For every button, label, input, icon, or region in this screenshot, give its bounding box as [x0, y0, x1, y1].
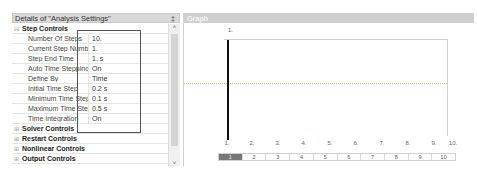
property-value[interactable]: On [88, 114, 101, 123]
time-reference-line [184, 83, 447, 84]
property-value[interactable]: On [88, 64, 101, 73]
section-nonlinear-controls[interactable]: ⊞ Nonlinear Controls [12, 144, 168, 154]
expand-icon[interactable]: ⊞ [12, 135, 20, 142]
x-tick: 7. [379, 140, 384, 146]
section-step-controls[interactable]: ⊟ Step Controls [12, 24, 168, 34]
step-button-10[interactable]: 10 [432, 154, 455, 160]
property-name: Number Of Steps [20, 35, 88, 42]
x-tick: 4. [301, 140, 306, 146]
property-row-initial-time-step[interactable]: Initial Time Step 0.2 s [12, 84, 168, 94]
property-value[interactable]: 0.2 s [88, 84, 107, 93]
current-step-marker[interactable] [227, 40, 229, 140]
property-row-number-of-steps[interactable]: Number Of Steps 10. [12, 34, 168, 44]
x-tick: 2. [249, 140, 254, 146]
details-scrollbar[interactable]: ˄ ˅ [168, 24, 180, 166]
properties-tree: ⊟ Step Controls Number Of Steps 10. Curr… [12, 24, 168, 164]
step-button-5[interactable]: 5 [314, 154, 338, 160]
property-row-maximum-time-step[interactable]: Maximum Time Step 0.5 s [12, 104, 168, 114]
property-value[interactable]: 0.1 s [88, 94, 107, 103]
property-name: Time Integration [20, 115, 88, 122]
property-value[interactable]: 1. s [88, 54, 103, 63]
expand-icon[interactable]: ⊞ [12, 145, 20, 152]
graph-title: Graph [187, 14, 208, 23]
section-label: Solver Controls [20, 125, 162, 132]
graph-plot-area[interactable] [224, 39, 448, 136]
property-name: Define By [20, 75, 88, 82]
property-name: Step End Time [20, 55, 88, 62]
step-button-6[interactable]: 6 [338, 154, 362, 160]
pin-icon[interactable]: ‡ [171, 15, 175, 22]
section-label: Nonlinear Controls [20, 145, 162, 152]
step-marker-label: 1. [228, 27, 233, 33]
section-output-controls[interactable]: ⊞ Output Controls [12, 154, 168, 164]
section-label: Restart Controls [20, 135, 162, 142]
property-name: Initial Time Step [20, 85, 88, 92]
scroll-up-icon[interactable]: ˄ [169, 24, 180, 30]
graph-panel: Graph 1. 1. 2. 3. 4. 5. 6. 7. 8. 9. 10. … [183, 13, 474, 166]
section-label: Output Controls [20, 155, 162, 162]
x-tick: 9. [431, 140, 436, 146]
expand-icon[interactable]: ⊞ [12, 155, 20, 162]
section-label: Step Controls [20, 25, 162, 32]
property-row-define-by[interactable]: Define By Time [12, 74, 168, 84]
collapse-icon[interactable]: ⊟ [12, 25, 20, 32]
property-name: Auto Time Stepping [20, 65, 88, 72]
graph-header: Graph [184, 13, 474, 23]
scroll-down-icon[interactable]: ˅ [169, 160, 180, 166]
property-row-auto-time-stepping[interactable]: Auto Time Stepping On [12, 64, 168, 74]
x-axis-ticks: 1. 2. 3. 4. 5. 6. 7. 8. 9. 10. [224, 140, 454, 148]
x-tick: 6. [353, 140, 358, 146]
property-name: Current Step Number [20, 45, 88, 52]
property-row-time-integration[interactable]: Time Integration On [12, 114, 168, 124]
section-solver-controls[interactable]: ⊞ Solver Controls [12, 124, 168, 134]
details-panel: Details of "Analysis Settings" ‡ ⊟ Step … [12, 13, 180, 166]
property-row-minimum-time-step[interactable]: Minimum Time Step 0.1 s [12, 94, 168, 104]
property-value[interactable]: Time [88, 74, 107, 83]
step-button-1[interactable]: 1 [219, 154, 243, 160]
x-tick: 8. [405, 140, 410, 146]
expand-icon[interactable]: ⊞ [12, 125, 20, 132]
property-value[interactable]: 10. [88, 34, 102, 43]
step-button-3[interactable]: 3 [266, 154, 290, 160]
details-header: Details of "Analysis Settings" ‡ [12, 13, 180, 23]
step-button-8[interactable]: 8 [385, 154, 409, 160]
section-restart-controls[interactable]: ⊞ Restart Controls [12, 134, 168, 144]
step-button-9[interactable]: 9 [409, 154, 433, 160]
property-row-step-end-time[interactable]: Step End Time 1. s [12, 54, 168, 64]
property-name: Minimum Time Step [20, 95, 88, 102]
x-tick: 1. [224, 140, 229, 146]
x-tick: 10. [449, 140, 457, 146]
scrollbar-thumb[interactable] [171, 34, 178, 146]
property-value[interactable]: 0.5 s [88, 104, 107, 113]
step-button-4[interactable]: 4 [290, 154, 314, 160]
property-value[interactable]: 1. [88, 44, 98, 53]
step-button-2[interactable]: 2 [243, 154, 267, 160]
x-tick: 3. [275, 140, 280, 146]
property-name: Maximum Time Step [20, 105, 88, 112]
property-row-current-step-number[interactable]: Current Step Number 1. [12, 44, 168, 54]
step-selector-bar: 1 2 3 4 5 6 7 8 9 10 [218, 153, 456, 161]
step-button-7[interactable]: 7 [361, 154, 385, 160]
x-tick: 5. [327, 140, 332, 146]
details-title: Details of "Analysis Settings" [15, 14, 111, 23]
